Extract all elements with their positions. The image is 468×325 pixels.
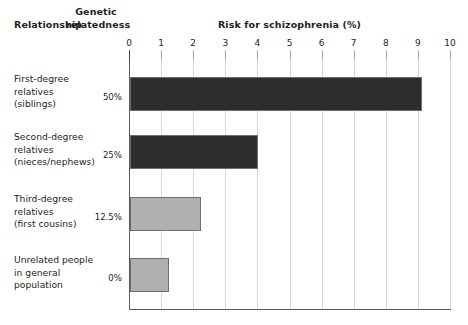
genetic-relatedness-value-2: 25% — [84, 150, 122, 160]
x-tick-label-9: 9 — [415, 38, 421, 48]
genetic-relatedness-value-1: 50% — [84, 92, 122, 102]
plot-area — [129, 60, 450, 309]
gridline-10 — [450, 60, 451, 309]
genetic-header-line-1: Genetic — [75, 6, 117, 17]
x-tick-label-2: 2 — [190, 38, 196, 48]
x-tick-label-8: 8 — [383, 38, 389, 48]
x-tick-mark-5 — [290, 50, 291, 60]
x-tick-mark-2 — [193, 50, 194, 60]
chart-axis-title: Risk for schizophrenia (%) — [129, 19, 450, 30]
x-tick-label-6: 6 — [319, 38, 325, 48]
x-tick-label-4: 4 — [255, 38, 261, 48]
genetic-header-line-2: relatedness — [66, 19, 130, 30]
x-tick-mark-10 — [450, 50, 451, 60]
x-tick-mark-9 — [418, 50, 419, 60]
schizophrenia-risk-bar-chart: Relationship Genetic relatedness Risk fo… — [0, 0, 468, 325]
bar-3 — [130, 197, 201, 231]
x-tick-mark-3 — [225, 50, 226, 60]
x-tick-mark-0 — [129, 50, 130, 60]
x-tick-label-10: 10 — [444, 38, 455, 48]
bar-4 — [130, 258, 169, 292]
x-tick-mark-8 — [386, 50, 387, 60]
row-label-1-line-1: First-degree — [14, 73, 122, 86]
x-tick-mark-4 — [257, 50, 258, 60]
x-tick-mark-7 — [354, 50, 355, 60]
x-tick-label-0: 0 — [126, 38, 132, 48]
bar-2 — [130, 135, 258, 169]
genetic-relatedness-value-4: 0% — [84, 273, 122, 283]
column-header-genetic-relatedness: Genetic relatedness — [66, 5, 126, 31]
row-label-4-line-1: Unrelated people — [14, 254, 122, 267]
row-label-2-line-1: Second-degree — [14, 131, 122, 144]
row-label-3-line-1: Third-degree — [14, 193, 122, 206]
bar-1 — [130, 77, 422, 111]
x-tick-mark-6 — [322, 50, 323, 60]
x-axis-line — [129, 309, 451, 310]
x-tick-mark-1 — [161, 50, 162, 60]
x-tick-label-7: 7 — [351, 38, 357, 48]
genetic-relatedness-value-3: 12.5% — [84, 212, 122, 222]
x-tick-label-1: 1 — [158, 38, 164, 48]
x-tick-label-5: 5 — [287, 38, 293, 48]
x-tick-label-3: 3 — [222, 38, 228, 48]
